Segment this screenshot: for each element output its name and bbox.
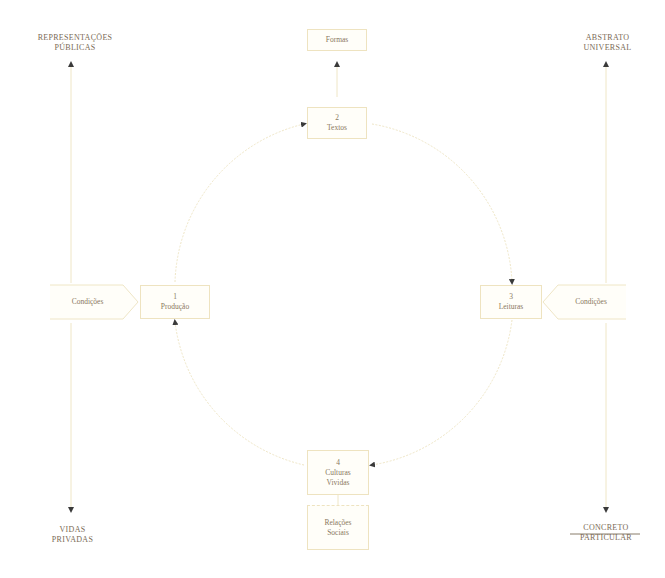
node-label: Culturas bbox=[325, 468, 350, 478]
label-line: UNIVERSAL bbox=[570, 43, 645, 53]
relacoes-label: Relações bbox=[324, 518, 351, 528]
node-label: Vividas bbox=[327, 478, 350, 488]
node-culturas-vividas: 4 Culturas Vividas bbox=[307, 450, 369, 495]
label-line: PARTICULAR bbox=[565, 533, 647, 543]
label-line: ABSTRATO bbox=[570, 33, 645, 43]
arc-textos-to-leituras bbox=[372, 124, 512, 282]
node-producao: 1 Produção bbox=[140, 285, 210, 319]
label-line: PRIVADAS bbox=[35, 535, 110, 545]
node-label: Leituras bbox=[499, 302, 524, 312]
formas-label: Formas bbox=[326, 35, 349, 45]
arc-producao-to-textos bbox=[175, 124, 304, 282]
label-line: REPRESENTAÇÕES bbox=[20, 33, 130, 43]
relacoes-label: Sociais bbox=[327, 528, 349, 538]
label-concreto-particular: CONCRETO PARTICULAR bbox=[565, 523, 647, 543]
node-number: 2 bbox=[335, 113, 339, 123]
node-number: 3 bbox=[509, 292, 513, 302]
label-vidas-privadas: VIDAS PRIVADAS bbox=[35, 525, 110, 545]
node-number: 1 bbox=[173, 292, 177, 302]
node-number: 4 bbox=[336, 458, 340, 468]
node-label: Produção bbox=[161, 302, 189, 312]
label-line: VIDAS bbox=[35, 525, 110, 535]
node-label: Textos bbox=[327, 123, 347, 133]
arc-leituras-to-culturas bbox=[372, 320, 512, 465]
left-condition-label: Condições bbox=[55, 297, 120, 307]
label-line: PÚBLICAS bbox=[20, 43, 130, 53]
label-abstrato-universal: ABSTRATO UNIVERSAL bbox=[570, 33, 645, 53]
arc-culturas-to-producao bbox=[175, 322, 304, 465]
label-line: CONCRETO bbox=[565, 523, 647, 533]
node-leituras: 3 Leituras bbox=[480, 285, 542, 319]
label-representacoes-publicas: REPRESENTAÇÕES PÚBLICAS bbox=[20, 33, 130, 53]
relacoes-sociais-box: Relações Sociais bbox=[307, 505, 369, 550]
formas-box: Formas bbox=[307, 29, 367, 51]
node-textos: 2 Textos bbox=[307, 107, 367, 139]
right-condition-label: Condições bbox=[560, 297, 622, 307]
